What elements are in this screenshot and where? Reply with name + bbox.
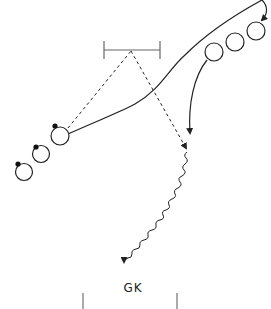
run-path-overlap [68,0,262,134]
mini-gate [104,41,160,59]
dribble-path [124,152,187,262]
drill-canvas [0,0,271,309]
drill-diagram: GK [0,0,271,309]
player-right-2 [226,33,244,51]
ball-icon [52,123,57,128]
player-right-3 [247,22,265,40]
player-left-1 [51,127,69,145]
player-right-1 [205,43,223,61]
players-right [205,22,265,61]
ball-icon [15,161,20,166]
pass-lines [68,51,186,148]
pass-from-gate [131,51,186,148]
players-left [16,127,70,181]
pass-to-gate [68,51,131,128]
run-path-receive [190,60,207,133]
goal-posts [83,293,177,309]
ball-icon [33,144,38,149]
goalkeeper-label: GK [118,281,148,295]
run-path-loop [262,0,267,20]
